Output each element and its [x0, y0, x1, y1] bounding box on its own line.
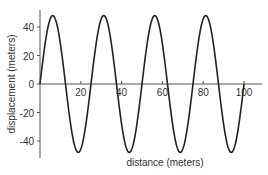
y-tick-label: -20: [20, 108, 35, 119]
y-axis: -40-2002040: [20, 10, 40, 158]
y-tick-label: 0: [28, 79, 34, 90]
y-tick-label: 40: [23, 22, 35, 33]
y-axis-label: displacement (meters): [6, 35, 17, 134]
x-axis-label: distance (meters): [126, 157, 203, 168]
y-tick-label: -40: [20, 136, 35, 147]
x-tick-label: 80: [198, 87, 210, 98]
x-tick-label: 60: [157, 87, 169, 98]
x-axis: 20406080100: [40, 81, 262, 98]
y-tick-label: 20: [23, 51, 35, 62]
chart: -40-2002040 20406080100 distance (meters…: [0, 0, 268, 175]
x-tick-label: 20: [75, 87, 87, 98]
